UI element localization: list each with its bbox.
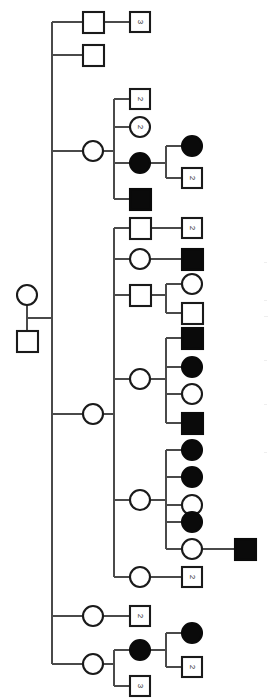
pedigree-symbols: 3 2 2 2 [17,12,256,696]
symbol-female-founder [17,285,37,305]
symbol-female-affected-d1 [182,136,202,156]
symbol-female-h5e [182,539,202,559]
symbol-male-e1 [130,218,151,239]
symbol-count-label: 2 [188,665,197,670]
symbol-male-affected-g4a [182,328,203,349]
symbol-female-affected-h5d [182,512,202,532]
symbol-count-label: 2 [136,614,145,619]
symbol-male-f3b [182,303,203,324]
symbol-female-e2 [130,249,150,269]
scan-edge-artifacts [264,262,268,453]
symbol-female-e5 [130,490,150,510]
symbol-count-label: 2 [136,125,145,130]
symbol-female-e4 [130,369,150,389]
symbol-female-affected-c3 [130,153,150,173]
symbol-count-label: 2 [136,97,145,102]
symbol-male-k2: 2 [182,657,202,677]
symbol-male-g2b [83,45,104,66]
symbol-male-spouse-s1: 3 [130,12,150,32]
symbol-male-spouse-s2: 2 [130,606,150,626]
symbol-male-e3 [130,285,151,306]
symbol-female-affected-h5b [182,467,202,487]
symbol-female-g2e [83,606,103,626]
symbol-male-affected-c4 [130,189,151,210]
symbol-female-g2d [83,404,103,424]
symbol-female-c2: 2 [130,117,150,137]
symbol-male-affected-g4d [182,413,203,434]
symbol-male-j2: 3 [130,676,150,696]
symbol-male-d2: 2 [182,168,202,188]
symbol-female-affected-h5a [182,440,202,460]
pedigree-canvas: 3 2 2 2 [0,0,269,700]
symbol-male-g2a [83,12,104,33]
symbol-count-label: 2 [188,176,197,181]
symbol-count-label: 2 [188,575,197,580]
symbol-male-affected-spouse-e2s [182,249,203,270]
symbol-male-c1: 2 [130,89,150,109]
symbol-female-g2f [83,654,103,674]
symbol-female-affected-j1 [130,640,150,660]
symbol-female-g2c [83,141,103,161]
symbol-female-affected-k1 [182,623,202,643]
symbol-female-e6 [130,567,150,587]
symbol-male-founder [17,331,38,352]
symbol-male-affected-spouse-h5es [235,539,256,560]
symbol-male-spouse-e1s: 2 [182,218,202,238]
symbol-male-spouse-e6s: 2 [182,567,202,587]
pedigree-chart: 3 2 2 2 [0,0,269,700]
symbol-female-f3a [182,274,202,294]
symbol-female-affected-g4b [182,357,202,377]
symbol-count-label: 2 [188,226,197,231]
symbol-female-g4c [182,384,202,404]
symbol-count-label: 3 [136,684,145,689]
symbol-count-label: 3 [136,20,145,25]
